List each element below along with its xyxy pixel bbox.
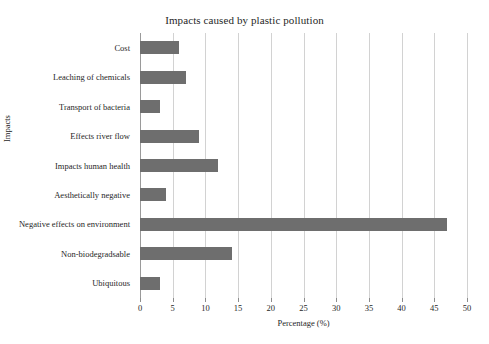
x-axis-tick bbox=[271, 298, 272, 302]
y-axis-label: Ubiquitous bbox=[92, 278, 130, 288]
bar bbox=[140, 188, 166, 201]
bar-row bbox=[140, 159, 467, 172]
bar bbox=[140, 159, 218, 172]
x-axis-label: 15 bbox=[234, 303, 243, 313]
y-axis-label: Cost bbox=[114, 43, 130, 53]
bar-row bbox=[140, 41, 467, 54]
x-axis-tick bbox=[238, 298, 239, 302]
x-axis-tick bbox=[369, 298, 370, 302]
x-axis-label: 5 bbox=[171, 303, 175, 313]
bar bbox=[140, 100, 160, 113]
bar-row bbox=[140, 71, 467, 84]
x-axis-label: 0 bbox=[138, 303, 142, 313]
y-axis-label: Negative effects on environment bbox=[19, 219, 130, 229]
x-axis-label: 25 bbox=[299, 303, 308, 313]
y-axis-tick-labels: CostLeaching of chemicalsTransport of ba… bbox=[0, 33, 136, 298]
x-axis-tick bbox=[304, 298, 305, 302]
x-axis-tick bbox=[140, 298, 141, 302]
bar bbox=[140, 277, 160, 290]
bar bbox=[140, 218, 447, 231]
y-axis-label: Impacts human health bbox=[55, 161, 130, 171]
x-axis-tick bbox=[336, 298, 337, 302]
x-axis-label: 20 bbox=[267, 303, 276, 313]
y-axis-label: Non-biodegradsable bbox=[61, 249, 130, 259]
y-axis-label: Effects river flow bbox=[70, 131, 130, 141]
x-axis-label: 45 bbox=[430, 303, 439, 313]
chart-title: Impacts caused by plastic pollution bbox=[0, 14, 489, 26]
bar-row bbox=[140, 218, 467, 231]
x-axis-label: 10 bbox=[201, 303, 210, 313]
x-axis-label: 35 bbox=[365, 303, 374, 313]
bar bbox=[140, 41, 179, 54]
gridline-50 bbox=[467, 33, 468, 298]
x-axis-label: 40 bbox=[397, 303, 406, 313]
bar-row bbox=[140, 247, 467, 260]
bar-row bbox=[140, 277, 467, 290]
y-axis-label: Aesthetically negative bbox=[54, 190, 130, 200]
bar-row bbox=[140, 100, 467, 113]
bar bbox=[140, 71, 186, 84]
x-axis-tick-labels: 05101520253035404550 bbox=[140, 303, 467, 317]
x-axis-tick bbox=[467, 298, 468, 302]
x-axis-tick bbox=[205, 298, 206, 302]
x-axis-label: 50 bbox=[463, 303, 472, 313]
x-axis-tick bbox=[402, 298, 403, 302]
plot-area bbox=[140, 33, 467, 298]
bar-row bbox=[140, 130, 467, 143]
bar-row bbox=[140, 188, 467, 201]
bar bbox=[140, 247, 232, 260]
bar-series bbox=[140, 33, 467, 298]
bar-chart-figure: Impacts caused by plastic pollution Impa… bbox=[0, 0, 489, 344]
x-axis-title: Percentage (%) bbox=[140, 318, 467, 328]
x-axis-tick bbox=[434, 298, 435, 302]
x-axis-tick bbox=[173, 298, 174, 302]
x-axis-label: 30 bbox=[332, 303, 341, 313]
y-axis-label: Leaching of chemicals bbox=[53, 72, 130, 82]
bar bbox=[140, 130, 199, 143]
y-axis-label: Transport of bacteria bbox=[59, 102, 130, 112]
